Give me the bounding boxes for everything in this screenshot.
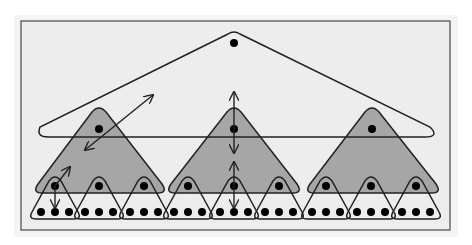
leaf-node: [109, 208, 117, 216]
subtree-node-right: [368, 125, 376, 133]
leaf-node: [37, 208, 45, 216]
leaf-node: [367, 208, 375, 216]
group-node: [95, 182, 103, 190]
leaf-node: [198, 208, 206, 216]
leaf-node: [289, 208, 297, 216]
leaf-node: [140, 208, 148, 216]
group-node: [412, 182, 420, 190]
leaf-node: [336, 208, 344, 216]
leaf-node: [322, 208, 330, 216]
leaf-node: [230, 208, 238, 216]
leaf-node: [154, 208, 162, 216]
leaf-node: [308, 208, 316, 216]
leaf-node: [244, 208, 252, 216]
leaf-node: [65, 208, 73, 216]
leaf-node: [398, 208, 406, 216]
leaf-node: [95, 208, 103, 216]
leaf-node: [381, 208, 389, 216]
tree-hierarchy-diagram: [0, 0, 472, 245]
leaf-node: [261, 208, 269, 216]
leaf-node: [426, 208, 434, 216]
leaf-node: [81, 208, 89, 216]
leaf-node: [353, 208, 361, 216]
group-node: [322, 182, 330, 190]
group-node: [275, 182, 283, 190]
root-node: [230, 39, 238, 47]
leaf-node: [170, 208, 178, 216]
leaf-node: [216, 208, 224, 216]
leaf-node: [51, 208, 59, 216]
group-node: [140, 182, 148, 190]
leaf-node: [126, 208, 134, 216]
leaf-node: [184, 208, 192, 216]
leaf-node: [412, 208, 420, 216]
leaf-node: [275, 208, 283, 216]
subtree-node-left: [95, 125, 103, 133]
group-node: [184, 182, 192, 190]
group-node: [367, 182, 375, 190]
